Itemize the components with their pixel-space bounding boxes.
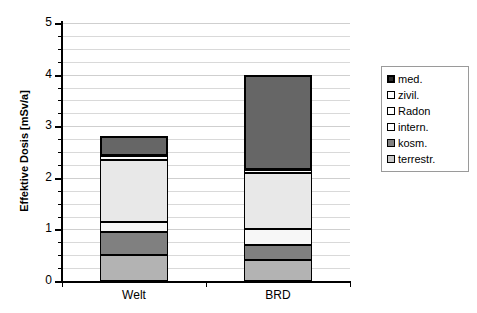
- y-tick-minor: [58, 139, 63, 140]
- legend-swatch-intern-icon: [387, 123, 395, 131]
- y-tick-minor: [58, 62, 63, 63]
- plot-area: [62, 23, 350, 281]
- y-tick-minor: [58, 191, 63, 192]
- legend-swatch-radon-icon: [387, 107, 395, 115]
- legend-item-med[interactable]: med.: [387, 71, 465, 87]
- x-tick-label-brd: BRD: [233, 288, 323, 302]
- y-tick-minor: [58, 88, 63, 89]
- y-tick-major: [55, 178, 63, 180]
- y-axis-title: Effektive Dosis [mSv/a]: [18, 51, 30, 251]
- bar-segment-radon: [244, 173, 312, 230]
- y-tick-label: 5: [12, 16, 52, 28]
- bar-brd: [244, 23, 312, 281]
- y-tick-minor: [58, 255, 63, 256]
- y-tick-minor: [58, 165, 63, 166]
- y-tick-label: 3: [12, 119, 52, 131]
- y-tick-major: [55, 126, 63, 128]
- bar-segment-kosm: [100, 232, 168, 255]
- bar-segment-radon: [100, 160, 168, 222]
- legend-swatch-zivil-icon: [387, 91, 395, 99]
- legend-label: terrestr.: [398, 153, 435, 165]
- y-tick-major: [55, 229, 63, 231]
- y-tick-minor: [58, 113, 63, 114]
- y-tick-label: 1: [12, 222, 52, 234]
- y-tick-minor: [58, 152, 63, 153]
- y-tick-minor: [58, 49, 63, 50]
- y-tick-label: 0: [12, 274, 52, 286]
- bar-segment-med: [100, 136, 168, 157]
- y-tick-minor: [58, 217, 63, 218]
- y-tick-label: 2: [12, 171, 52, 183]
- bar-segment-zivil: [100, 156, 168, 160]
- y-tick-minor: [58, 204, 63, 205]
- x-tick-label-welt: Welt: [89, 288, 179, 302]
- y-tick-minor: [58, 100, 63, 101]
- y-tick-major: [55, 23, 63, 25]
- x-axis-tick: [350, 281, 351, 287]
- legend-item-kosm[interactable]: kosm.: [387, 135, 465, 151]
- y-tick-minor: [58, 36, 63, 37]
- x-axis-tick: [206, 281, 207, 287]
- stacked-bar-chart: Effektive Dosis [mSv/a] 543210 WeltBRD m…: [0, 0, 477, 313]
- y-tick-major: [55, 75, 63, 77]
- y-tick-minor: [58, 242, 63, 243]
- bar-segment-intern: [244, 229, 312, 244]
- y-tick-minor: [58, 268, 63, 269]
- bar-segment-terrestr: [244, 260, 312, 281]
- chart-legend: med.zivil.Radonintern.kosm.terrestr.: [381, 66, 469, 172]
- bar-segment-kosm: [244, 245, 312, 260]
- legend-item-zivil[interactable]: zivil.: [387, 87, 465, 103]
- legend-label: med.: [398, 73, 422, 85]
- legend-item-terrestr[interactable]: terrestr.: [387, 151, 465, 167]
- legend-swatch-med-icon: [387, 75, 395, 83]
- bar-segment-zivil: [244, 170, 312, 173]
- legend-label: intern.: [398, 121, 429, 133]
- bar-segment-intern: [100, 222, 168, 232]
- bar-segment-terrestr: [100, 255, 168, 281]
- legend-item-intern[interactable]: intern.: [387, 119, 465, 135]
- legend-label: Radon: [398, 105, 430, 117]
- legend-swatch-terrestr-icon: [387, 155, 395, 163]
- y-tick-label: 4: [12, 68, 52, 80]
- bar-welt: [100, 23, 168, 281]
- legend-item-radon[interactable]: Radon: [387, 103, 465, 119]
- x-axis-tick: [62, 281, 63, 287]
- legend-swatch-kosm-icon: [387, 139, 395, 147]
- legend-label: zivil.: [398, 89, 419, 101]
- bar-segment-med: [244, 75, 312, 170]
- legend-label: kosm.: [398, 137, 427, 149]
